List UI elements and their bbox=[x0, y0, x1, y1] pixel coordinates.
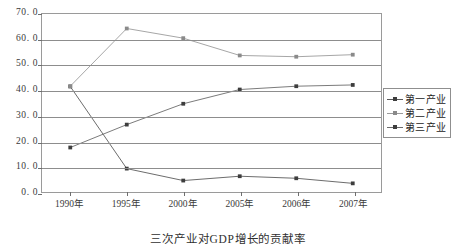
x-tick-label: 1990年 bbox=[55, 199, 84, 210]
y-axis-tick-labels: 0. 010. 020. 030. 040. 050. 060. 070. 0 bbox=[0, 0, 38, 200]
x-tick-mark bbox=[184, 192, 185, 196]
x-tick-mark bbox=[127, 192, 128, 196]
x-tick-mark bbox=[70, 192, 71, 196]
x-tick-label: 1995年 bbox=[112, 199, 141, 210]
x-tick-mark bbox=[298, 192, 299, 196]
legend-label: 第三产业 bbox=[405, 122, 446, 133]
data-point-marker bbox=[294, 55, 298, 59]
x-tick-label: 2005年 bbox=[225, 199, 254, 210]
y-tick-label: 20. 0 bbox=[0, 137, 38, 147]
x-tick-label: 2006年 bbox=[282, 199, 311, 210]
legend-label: 第一产业 bbox=[405, 94, 446, 105]
y-tick-label: 10. 0 bbox=[0, 162, 38, 172]
series-line bbox=[70, 28, 353, 86]
legend-marker-icon bbox=[387, 122, 403, 132]
y-tick-label: 60. 0 bbox=[0, 34, 38, 44]
legend-marker-icon bbox=[387, 94, 403, 104]
y-tick-mark bbox=[38, 14, 42, 15]
data-point-marker bbox=[294, 176, 298, 180]
data-point-marker bbox=[125, 27, 129, 31]
gridline bbox=[42, 40, 381, 41]
chart-figure: 0. 010. 020. 030. 040. 050. 060. 070. 0 … bbox=[0, 0, 456, 245]
y-tick-label: 50. 0 bbox=[0, 59, 38, 69]
data-point-marker bbox=[68, 146, 72, 150]
y-tick-label: 40. 0 bbox=[0, 85, 38, 95]
x-tick-mark bbox=[241, 192, 242, 196]
chart-caption: 三次产业对GDP增长的贡献率 bbox=[0, 233, 456, 245]
y-tick-mark bbox=[38, 194, 42, 195]
gridline bbox=[42, 168, 381, 169]
x-axis-tick-labels: 1990年1995年2000年2005年2006年2007年 bbox=[41, 199, 382, 215]
data-point-marker bbox=[125, 123, 129, 127]
data-point-marker bbox=[351, 83, 355, 87]
legend-item[interactable]: 第二产业 bbox=[387, 106, 446, 120]
y-tick-label: 0. 0 bbox=[0, 188, 38, 198]
chart-legend: 第一产业第二产业第三产业 bbox=[383, 88, 451, 138]
data-point-marker bbox=[68, 84, 72, 88]
legend-item[interactable]: 第一产业 bbox=[387, 92, 446, 106]
data-point-marker bbox=[181, 102, 185, 106]
y-tick-label: 70. 0 bbox=[0, 8, 38, 18]
gridline bbox=[42, 91, 381, 92]
plot-area bbox=[41, 13, 382, 193]
gridline bbox=[42, 143, 381, 144]
gridline bbox=[42, 117, 381, 118]
data-point-marker bbox=[181, 179, 185, 183]
legend-marker-icon bbox=[387, 108, 403, 118]
data-point-marker bbox=[351, 181, 355, 185]
x-tick-label: 2000年 bbox=[169, 199, 198, 210]
y-tick-label: 30. 0 bbox=[0, 111, 38, 121]
x-tick-label: 2007年 bbox=[339, 199, 368, 210]
x-tick-mark bbox=[355, 192, 356, 196]
data-point-marker bbox=[238, 174, 242, 178]
data-point-marker bbox=[294, 84, 298, 88]
data-point-marker bbox=[351, 53, 355, 57]
legend-label: 第二产业 bbox=[405, 108, 446, 119]
data-point-marker bbox=[238, 54, 242, 58]
legend-item[interactable]: 第三产业 bbox=[387, 120, 446, 134]
gridline bbox=[42, 65, 381, 66]
